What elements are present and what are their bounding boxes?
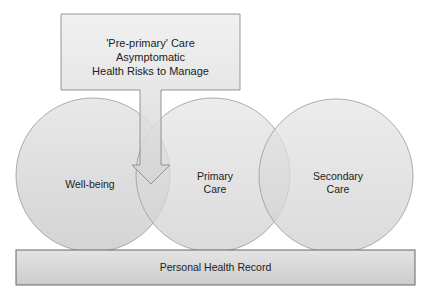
secondary-care-label: Secondary Care	[288, 170, 388, 196]
well-being-text: Well-being	[40, 178, 140, 191]
care-text: Care	[288, 183, 388, 196]
secondary-text: Secondary	[288, 170, 388, 183]
care-text: Care	[165, 183, 265, 196]
callout-line-1: 'Pre-primary' Care	[61, 36, 240, 50]
callout-text: 'Pre-primary' Care Asymptomatic Health R…	[61, 36, 240, 78]
well-being-label: Well-being	[40, 178, 140, 191]
callout-line-2: Asymptomatic	[61, 50, 240, 64]
personal-health-record-label: Personal Health Record	[16, 261, 415, 274]
primary-text: Primary	[165, 170, 265, 183]
callout-line-3: Health Risks to Manage	[61, 64, 240, 78]
primary-care-label: Primary Care	[165, 170, 265, 196]
